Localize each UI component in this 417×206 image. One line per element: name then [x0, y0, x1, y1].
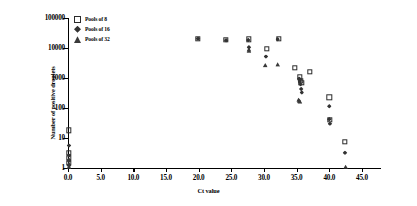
x-axis-tick-label: 10.0 — [127, 174, 139, 182]
data-point — [67, 143, 72, 148]
data-point — [327, 104, 332, 109]
x-axis-tick-label: 40.0 — [323, 174, 335, 182]
x-axis-tick-label: 20.0 — [193, 174, 205, 182]
data-point — [343, 151, 348, 156]
legend-marker-icon — [74, 26, 81, 33]
data-point — [275, 62, 280, 67]
legend-marker-icon — [74, 16, 81, 23]
y-axis-title: Number of positive droplets — [49, 66, 56, 139]
x-axis-tick — [101, 168, 102, 172]
x-axis-tick-label: 25.0 — [225, 174, 237, 182]
x-axis-tick-label: 35.0 — [291, 174, 303, 182]
data-point — [292, 65, 297, 70]
x-axis-tick — [166, 168, 167, 172]
x-axis-tick — [231, 168, 232, 172]
data-point — [342, 139, 347, 144]
legend-marker-icon — [74, 36, 81, 43]
legend-item: Pools of 32 — [74, 35, 110, 43]
legend-item: Pools of 8 — [74, 15, 110, 23]
data-point — [327, 94, 332, 99]
legend-item-label: Pools of 8 — [85, 16, 107, 22]
x-axis-tick-label: 45.0 — [356, 174, 368, 182]
legend-item: Pools of 16 — [74, 25, 110, 33]
y-axis-tick-label: 100 — [55, 104, 65, 112]
y-axis-tick-label: 100000 — [45, 14, 65, 22]
x-axis-tick-label: 5.0 — [96, 174, 104, 182]
x-axis-tick — [133, 168, 134, 172]
data-point — [299, 87, 304, 92]
legend-item-label: Pools of 32 — [85, 36, 110, 42]
x-axis-tick-label: 15.0 — [160, 174, 172, 182]
data-point — [300, 90, 305, 95]
chart-legend: Pools of 8Pools of 16Pools of 32 — [72, 13, 114, 45]
x-axis-tick — [199, 168, 200, 172]
y-axis-tick-label: 1 — [62, 164, 65, 172]
x-axis-tick — [297, 168, 298, 172]
data-point — [263, 63, 268, 68]
x-axis-title: Ct value — [0, 187, 417, 194]
data-point — [264, 46, 269, 51]
x-axis-line: 0.05.010.015.020.025.030.035.040.045.0 — [68, 168, 381, 169]
data-point — [343, 164, 348, 169]
x-axis-tick — [362, 168, 363, 172]
scatter-chart: 110100100010000100000 0.05.010.015.020.0… — [0, 0, 417, 206]
x-axis-tick — [264, 168, 265, 172]
plot-area — [68, 18, 375, 168]
y-axis-tick-label: 10 — [58, 134, 65, 142]
x-axis-tick-label: 0.0 — [64, 174, 72, 182]
x-axis-tick-label: 30.0 — [258, 174, 270, 182]
data-point — [264, 54, 269, 59]
legend-item-label: Pools of 16 — [85, 26, 110, 32]
data-point — [66, 128, 71, 133]
y-axis-tick-label: 10000 — [48, 44, 65, 52]
data-point — [307, 69, 312, 74]
x-axis-tick — [329, 168, 330, 172]
